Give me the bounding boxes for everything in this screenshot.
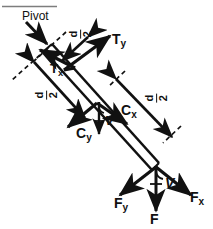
construction-lines [12,32,181,143]
dimension-right-numerator: d [144,94,155,103]
force-resultant-label: F [150,212,159,226]
compression-y-arrow [68,103,97,127]
lower-tick-dash [163,126,181,143]
compression-y-label: Cy [76,126,92,143]
dimension-top-value: d 2 [68,30,93,39]
free-body-diagram: Pivot Ty Tx Cx Cy V Fy Fx F V d 2 d 2 d … [0,0,213,229]
dimension-top-arrow [62,37,88,61]
force-x-subscript: x [199,196,205,207]
dimension-right-denominator: 2 [158,94,169,103]
shear-bottom-label: V [165,176,174,190]
tension-y-label: Ty [112,32,126,49]
tension-y-subscript: y [121,38,127,49]
tension-junction-stub [64,68,75,70]
bar-edge-upper [52,44,159,163]
compression-x-subscript: x [131,109,137,120]
compression-x-symbol: C [121,102,131,118]
force-y-label: Fy [114,196,128,213]
compression-y-symbol: C [76,125,86,141]
dimension-left-denominator: 2 [48,91,59,100]
dimension-top-group [62,37,88,61]
force-y-symbol: F [114,195,123,211]
compression-y-subscript: y [86,132,92,143]
dimension-left-value: d 2 [34,91,59,100]
tension-x-symbol: T [50,61,58,76]
force-x-label: Fx [190,190,204,207]
dimension-top-numerator: d [68,30,79,39]
pivot-pointer-arrow [26,22,47,44]
shear-mid-label: V [105,114,114,127]
dimension-top-denominator: 2 [82,30,93,39]
dimension-left-numerator: d [34,91,45,100]
tension-y-symbol: T [112,31,121,47]
pivot-label: Pivot [22,10,49,22]
tension-x-subscript: x [58,68,63,78]
compression-x-label: Cx [121,103,137,120]
force-y-subscript: y [123,202,129,213]
tension-x-label: Tx [50,62,63,78]
force-x-symbol: F [190,189,199,205]
force-y-arrow [120,167,156,195]
dimension-right-value: d 2 [144,94,169,103]
